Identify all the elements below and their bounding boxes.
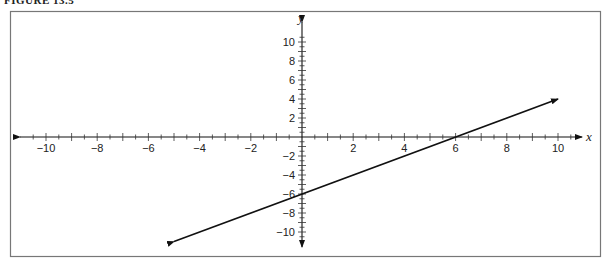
y-tick-label: −8 [282, 207, 295, 219]
y-tick-label: −10 [276, 226, 295, 238]
x-tick-label: −2 [245, 142, 258, 154]
y-tick-label: 2 [289, 112, 295, 124]
x-tick-label: −10 [37, 142, 56, 154]
x-tick-label: 8 [504, 142, 510, 154]
y-tick-label: 4 [289, 93, 295, 105]
x-tick-label: 10 [552, 142, 564, 154]
x-axis-label: x [585, 129, 592, 144]
x-tick-label: −8 [91, 142, 104, 154]
y-tick-label: 8 [289, 55, 295, 67]
x-tick-label: −4 [193, 142, 206, 154]
x-tick-label: 4 [401, 142, 407, 154]
y-tick-label: −2 [282, 150, 295, 162]
y-tick-label: −4 [282, 169, 295, 181]
y-axis-label: y [296, 10, 304, 25]
y-tick-label: 10 [283, 36, 295, 48]
y-tick-label: 6 [289, 74, 295, 86]
x-tick-label: −6 [142, 142, 155, 154]
figure-frame [11, 12, 601, 257]
x-tick-label: 2 [350, 142, 356, 154]
x-tick-label: 6 [453, 142, 459, 154]
coordinate-plane: −10−8−6−4−2246810108642−2−4−6−8−10 x y [0, 0, 606, 262]
